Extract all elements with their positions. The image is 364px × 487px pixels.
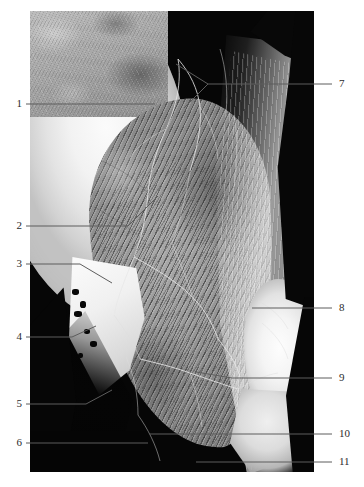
label-2: 2	[8, 220, 22, 231]
leader-lines	[0, 0, 364, 487]
label-1: 1	[8, 98, 22, 109]
leader-2	[26, 196, 158, 226]
label-9: 9	[339, 372, 345, 383]
leader-3	[26, 264, 112, 283]
label-3: 3	[8, 258, 22, 269]
label-8: 8	[339, 302, 345, 313]
leader-5	[26, 390, 112, 404]
label-5: 5	[8, 398, 22, 409]
leader-9	[196, 372, 332, 378]
leader-7	[176, 64, 332, 108]
label-10: 10	[339, 428, 350, 439]
label-4: 4	[8, 331, 22, 342]
figure-root: 1 2 3 4 5 6 7 8 9 10 11	[0, 0, 364, 487]
label-7: 7	[339, 78, 345, 89]
label-11: 11	[339, 456, 350, 467]
leader-4	[26, 326, 96, 337]
label-6: 6	[8, 437, 22, 448]
